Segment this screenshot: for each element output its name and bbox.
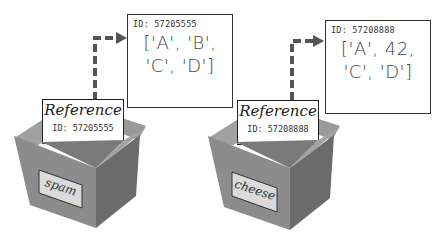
variable-box-cheese: [208, 128, 340, 230]
boxes-front: [0, 0, 443, 242]
variable-box-spam: [14, 128, 146, 228]
